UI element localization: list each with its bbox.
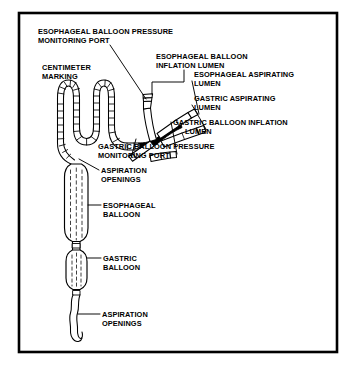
- label-gastric-balloon-inflation-lumen: GASTRIC BALLOON INFLATIONLUMEN: [173, 118, 288, 136]
- label-line-1: GASTRIC ASPIRATING: [194, 94, 276, 103]
- esophageal-balloon-pressure-monitoring-port-tip: [144, 101, 152, 109]
- label-line-2: INFLATION LUMEN: [156, 61, 224, 70]
- label-esophageal-aspirating-lumen: ESOPHAGEAL ASPIRATINGLUMEN: [194, 70, 294, 88]
- label-line-2: LUMEN: [194, 79, 221, 88]
- label-gastric-balloon-pressure-monitoring-port: GASTRIC BALLOON PRESSUREMONITORING PORT: [98, 142, 214, 160]
- label-esophageal-balloon: ESOPHAGEALBALLOON: [103, 201, 156, 219]
- label-line-2: MONITORING PORT: [98, 151, 170, 160]
- label-line-2: OPENINGS: [102, 319, 142, 328]
- inter-balloon-collar: [73, 244, 81, 249]
- label-line-2: LUMEN: [185, 127, 212, 136]
- label-line-1: ASPIRATION: [102, 310, 148, 319]
- label-line-2: LUMEN: [194, 103, 221, 112]
- distal-collar: [73, 291, 80, 296]
- label-centimeter-marking: CENTIMETERMARKING: [42, 63, 91, 81]
- label-line-1: ESOPHAGEAL BALLOON: [156, 52, 248, 61]
- label-gastric-balloon: GASTRICBALLOON: [103, 254, 140, 272]
- label-esophageal-balloon-pressure-monitoring-port: ESOPHAGEAL BALLOON PRESSUREMONITORING PO…: [38, 27, 173, 45]
- label-line-1: ESOPHAGEAL ASPIRATING: [194, 70, 294, 79]
- label-esophageal-balloon-inflation-lumen: ESOPHAGEAL BALLOONINFLATION LUMEN: [156, 52, 248, 70]
- label-line-2: BALLOON: [103, 263, 140, 272]
- label-line-2: MARKING: [42, 72, 78, 81]
- label-line-1: ESOPHAGEAL: [103, 201, 156, 210]
- label-line-1: CENTIMETER: [42, 63, 91, 72]
- label-line-2: MONITORING PORT: [38, 36, 110, 45]
- label-line-1: GASTRIC: [103, 254, 137, 263]
- label-line-2: OPENINGS: [101, 175, 141, 184]
- label-line-1: GASTRIC BALLOON PRESSURE: [98, 142, 214, 151]
- label-line-1: ASPIRATION: [101, 166, 147, 175]
- figure-root: ESOPHAGEAL BALLOON PRESSUREMONITORING PO…: [0, 0, 350, 372]
- label-aspiration-openings-proximal: ASPIRATIONOPENINGS: [101, 166, 147, 184]
- label-line-1: ESOPHAGEAL BALLOON PRESSURE: [38, 27, 173, 36]
- label-line-2: BALLOON: [103, 210, 140, 219]
- label-line-1: GASTRIC BALLOON INFLATION: [173, 118, 288, 127]
- label-gastric-aspirating-lumen: GASTRIC ASPIRATINGLUMEN: [194, 94, 276, 112]
- label-aspiration-openings-distal: ASPIRATIONOPENINGS: [102, 310, 148, 328]
